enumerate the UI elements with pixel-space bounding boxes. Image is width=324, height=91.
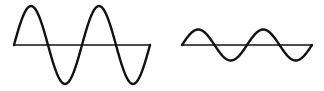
high-amplitude-wave-group xyxy=(14,6,150,84)
wave-diagram xyxy=(0,0,324,91)
low-amplitude-wave-group xyxy=(182,30,312,61)
